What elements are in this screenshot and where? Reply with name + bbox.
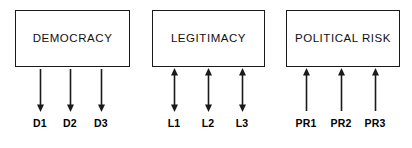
arrow-down-democracy-3 (95, 68, 108, 112)
construct-label-legitimacy: LEGITIMACY (171, 33, 246, 45)
indicator-label-d3: D3 (76, 118, 126, 130)
arrow-up-political-risk-3 (369, 68, 382, 112)
arrow-up-political-risk-2 (335, 68, 348, 112)
arrow-down-democracy-1 (34, 68, 47, 112)
indicator-label-l3: L3 (217, 118, 267, 130)
arrow-both-legitimacy-3 (236, 68, 249, 112)
construct-label-political-risk: POLITICAL RISK (295, 33, 391, 45)
arrow-both-legitimacy-2 (202, 68, 215, 112)
construct-box-political-risk[interactable]: POLITICAL RISK (286, 10, 400, 67)
arrow-both-legitimacy-1 (168, 68, 181, 112)
arrow-down-democracy-2 (64, 68, 77, 112)
construct-box-democracy[interactable]: DEMOCRACY (15, 10, 130, 67)
indicator-label-pr3: PR3 (350, 118, 400, 130)
construct-label-democracy: DEMOCRACY (33, 33, 113, 45)
construct-box-legitimacy[interactable]: LEGITIMACY (152, 10, 265, 67)
diagram-canvas: DEMOCRACYLEGITIMACYPOLITICAL RISK D1D2D3… (0, 0, 412, 148)
arrow-up-political-risk-1 (300, 68, 313, 112)
